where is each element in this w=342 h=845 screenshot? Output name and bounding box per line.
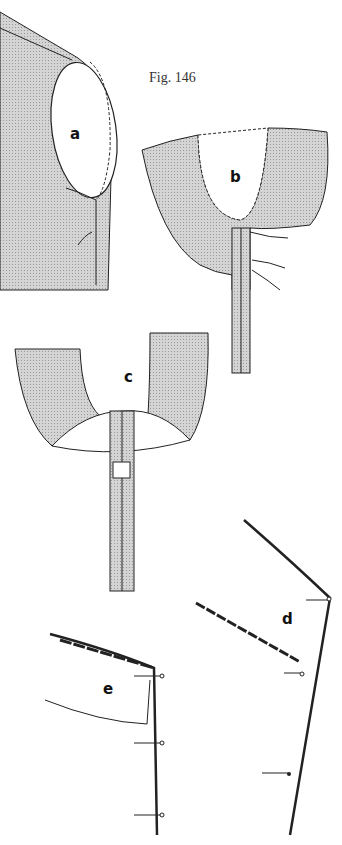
panel-d-drawing xyxy=(196,520,331,835)
panel-label-c: c xyxy=(124,368,133,386)
panel-label-b: b xyxy=(230,168,241,186)
panel-label-d: d xyxy=(282,610,293,628)
sewing-illustration xyxy=(0,0,342,845)
figure-canvas: Fig. 146 a b c d e xyxy=(0,0,342,845)
panel-a-drawing xyxy=(0,12,125,290)
figure-title: Fig. 146 xyxy=(149,70,196,86)
panel-label-a: a xyxy=(70,125,80,143)
panel-c-drawing xyxy=(15,333,208,591)
panel-label-e: e xyxy=(103,680,113,698)
panel-e-drawing xyxy=(45,634,164,835)
